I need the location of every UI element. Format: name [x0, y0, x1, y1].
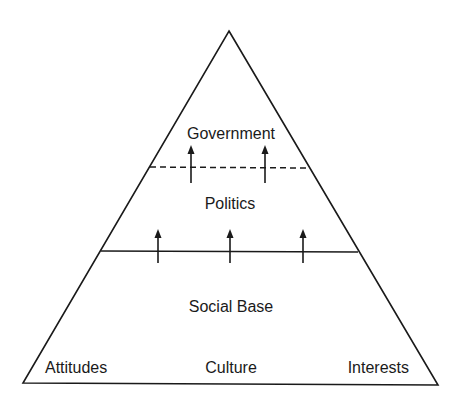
arrow-social-base-to-politics-1: [155, 229, 162, 263]
arrow-politics-to-government-2: [262, 145, 269, 183]
pyramid-diagram: Government Politics Social Base Attitude…: [0, 0, 462, 415]
arrow-politics-to-government-1: [188, 145, 195, 183]
level-label-social-base: Social Base: [189, 298, 274, 315]
level-label-government: Government: [187, 125, 276, 142]
level-label-politics: Politics: [205, 195, 256, 212]
government-politics-divider: [150, 167, 309, 168]
base-component-culture: Culture: [205, 359, 257, 376]
base-component-interests: Interests: [348, 359, 409, 376]
arrow-social-base-to-politics-3: [300, 229, 307, 263]
arrow-social-base-to-politics-2: [227, 229, 234, 263]
base-component-attitudes: Attitudes: [45, 359, 107, 376]
